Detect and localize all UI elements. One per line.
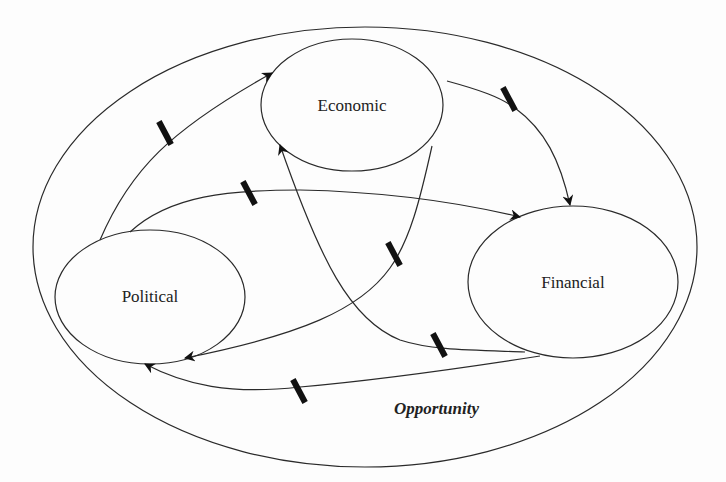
node-label-economic: Economic	[318, 96, 387, 115]
edge-political-to-economic	[100, 73, 272, 240]
opportunity-boundary	[33, 27, 697, 467]
node-label-financial: Financial	[541, 273, 605, 292]
node-economic: Economic	[261, 39, 443, 171]
delay-mark-icon	[430, 332, 448, 358]
delay-mark-icon	[290, 378, 308, 404]
node-label-political: Political	[122, 287, 179, 306]
delay-mark-icon	[240, 180, 258, 206]
delay-mark-icon	[156, 120, 174, 146]
node-political: Political	[55, 230, 245, 364]
context-label-opportunity: Opportunity	[394, 399, 479, 418]
delay-mark-icon	[500, 86, 518, 112]
node-financial: Financial	[468, 206, 678, 358]
causal-loop-diagram: Economic Political Financial Opportuni	[0, 0, 726, 482]
edge-political-to-financial	[130, 190, 520, 232]
edge-financial-to-political	[145, 356, 540, 390]
